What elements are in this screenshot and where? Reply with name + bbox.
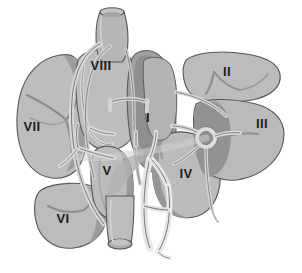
label-segment-iii: III: [256, 116, 268, 131]
label-segment-iv: IV: [179, 166, 192, 181]
label-segment-ii: II: [223, 64, 231, 79]
segment-ii-shape: [183, 52, 280, 102]
label-segment-vii: VII: [23, 119, 40, 134]
label-segment-viii: VIII: [90, 58, 111, 73]
label-segment-i: I: [146, 110, 150, 125]
liver-diagram-canvas: VIII VII VI V IV III II I: [0, 0, 302, 273]
label-segment-v: V: [102, 163, 111, 178]
inferior-vena-cava-inferior: [106, 196, 134, 249]
label-segment-vi: VI: [56, 211, 69, 226]
liver-anatomy-figure: VIII VII VI V IV III II I: [0, 0, 302, 273]
